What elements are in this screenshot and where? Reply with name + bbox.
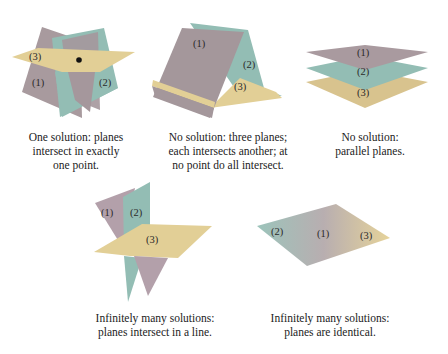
caption-line: No solution:	[310, 130, 430, 144]
panel-no-solution-prism-figure: (1) (2) (3)	[152, 23, 282, 118]
plane-label-3: (3)	[234, 81, 247, 93]
caption-one-solution: One solution: planes intersect in exactl…	[6, 130, 146, 172]
plane-label-2: (2)	[357, 66, 370, 78]
plane-label-1: (1)	[317, 228, 330, 240]
plane-label-3: (3)	[357, 87, 370, 99]
caption-identical: Infinitely many solutions: planes are id…	[255, 311, 405, 339]
planes-diagram: (3) (1) (2) (1) (2) (3) (1) (2) (3) (1) …	[0, 0, 448, 354]
panel-identical-figure: (2) (1) (3)	[257, 204, 390, 266]
plane-label-3: (3)	[29, 51, 42, 63]
plane-label-2: (2)	[271, 226, 284, 238]
caption-line: Infinitely many solutions:	[80, 311, 230, 325]
plane-label-1: (1)	[32, 77, 45, 89]
caption-line: No solution: three planes;	[148, 130, 308, 144]
plane-label-1: (1)	[101, 207, 114, 219]
plane-label-2: (2)	[99, 77, 112, 89]
caption-line: planes intersect in a line.	[80, 325, 230, 339]
intersection-point	[76, 57, 82, 63]
caption-line: intersect in exactly	[6, 144, 146, 158]
plane-1-lower	[134, 256, 168, 296]
caption-no-solution-prism: No solution: three planes; each intersec…	[148, 130, 308, 172]
plane-label-1: (1)	[357, 47, 370, 59]
caption-line: one point.	[6, 158, 146, 172]
plane-label-2: (2)	[130, 207, 143, 219]
caption-line: One solution: planes	[6, 130, 146, 144]
panel-line-figure: (1) (2) (3)	[94, 182, 212, 302]
caption-line: Infinitely many solutions:	[255, 311, 405, 325]
plane-label-2: (2)	[243, 59, 256, 71]
caption-line: parallel planes.	[310, 144, 430, 158]
caption-line: each intersects another; at	[148, 144, 308, 158]
panel-parallel-figure: (1) (2) (3)	[306, 45, 428, 108]
caption-line: no point do all intersect.	[148, 158, 308, 172]
plane-label-3: (3)	[360, 230, 373, 242]
plane-label-1: (1)	[193, 38, 206, 50]
caption-line: planes are identical.	[255, 325, 405, 339]
caption-line-intersection: Infinitely many solutions: planes inters…	[80, 311, 230, 339]
plane-label-3: (3)	[146, 234, 159, 246]
caption-parallel: No solution: parallel planes.	[310, 130, 430, 158]
panel-one-solution-figure: (3) (1) (2)	[12, 27, 135, 118]
